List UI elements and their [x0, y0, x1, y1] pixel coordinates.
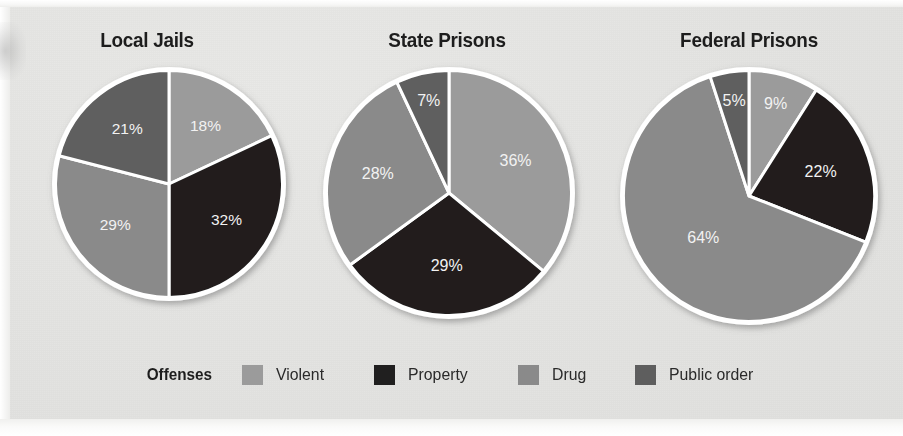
- legend-item-property[interactable]: Property: [374, 365, 472, 385]
- pie-slice-label-drug: 64%: [687, 229, 719, 246]
- legend-label-drug: Drug: [552, 365, 586, 385]
- legend-swatch-property: [374, 365, 395, 385]
- pie-chart-state-prisons: 36%29%28%7%: [318, 62, 580, 324]
- pie-svg: 18%32%29%21%: [47, 62, 291, 306]
- pie-slice-label-public-order: 7%: [417, 92, 440, 109]
- page-margin-bottom: [0, 419, 903, 436]
- legend-swatch-drug: [518, 365, 539, 385]
- legend-label-public-order: Public order: [669, 365, 753, 385]
- chart-title-local-jails: Local Jails: [17, 28, 278, 52]
- pie-slice-label-violent: 18%: [190, 117, 221, 134]
- pie-slice-label-property: 32%: [211, 211, 242, 228]
- legend-title: Offenses: [147, 365, 212, 385]
- chart-legend: Offenses Violent Property Drug Public or…: [0, 358, 903, 392]
- legend-swatch-violent: [242, 365, 263, 385]
- pie-slice-label-property: 29%: [431, 257, 463, 274]
- chart-title-state-prisons: State Prisons: [317, 28, 578, 52]
- pie-slice-label-violent: 36%: [499, 152, 531, 169]
- legend-item-violent[interactable]: Violent: [242, 365, 328, 385]
- legend-item-drug[interactable]: Drug: [518, 365, 589, 385]
- pie-chart-local-jails: 18%32%29%21%: [47, 62, 291, 306]
- page-margin-top: [0, 0, 903, 7]
- pie-svg: 36%29%28%7%: [318, 62, 580, 324]
- pie-slice-label-violent: 9%: [764, 95, 787, 112]
- legend-label-violent: Violent: [276, 365, 324, 385]
- pie-chart-federal-prisons: 9%22%64%5%: [615, 62, 883, 330]
- pie-slice-label-public-order: 5%: [723, 92, 746, 109]
- pie-slice-label-drug: 29%: [100, 216, 131, 233]
- figure-root: Local Jails State Prisons Federal Prison…: [0, 0, 903, 436]
- legend-item-public-order[interactable]: Public order: [635, 365, 760, 385]
- pie-slice-label-property: 22%: [805, 163, 837, 180]
- pie-svg: 9%22%64%5%: [615, 62, 883, 330]
- legend-label-property: Property: [408, 365, 468, 385]
- pie-slice-label-public-order: 21%: [112, 120, 143, 137]
- chart-title-federal-prisons: Federal Prisons: [619, 28, 880, 52]
- pie-slice-label-drug: 28%: [362, 165, 394, 182]
- legend-swatch-public-order: [635, 365, 656, 385]
